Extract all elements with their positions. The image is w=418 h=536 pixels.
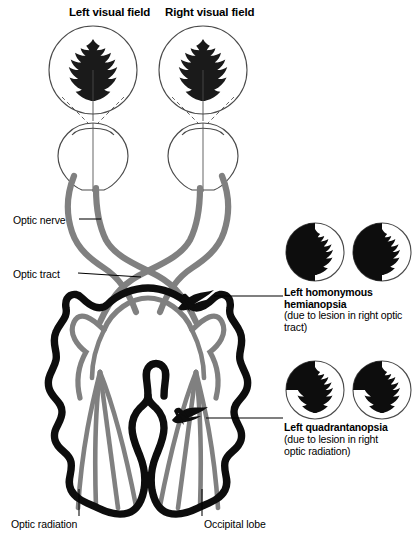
defect-circle-quadrantanopsia-left bbox=[285, 360, 344, 419]
label-quadrantanopsia-title: Left quadrantanopsia bbox=[284, 421, 416, 433]
label-quadrantanopsia-subtitle: (due to lesion in right optic radiation) bbox=[284, 433, 418, 458]
label-hemianopsia-subtitle: (due to lesion in right optic tract) bbox=[284, 309, 418, 334]
left-eyeball bbox=[58, 123, 128, 192]
label-occipital-lobe: Occipital lobe bbox=[204, 518, 266, 530]
label-left-visual-field: Left visual field bbox=[69, 6, 150, 20]
label-hemianopsia-title: Left homonymous hemianopsia bbox=[284, 286, 416, 311]
defect-circle-quadrantanopsia-right bbox=[352, 360, 411, 419]
label-optic-nerve: Optic nerve bbox=[13, 214, 66, 226]
left-visual-field-circle bbox=[49, 26, 137, 121]
right-eyeball bbox=[168, 123, 238, 192]
defect-circle-hemianopsia-left bbox=[285, 222, 344, 282]
figure-canvas: Left visual field Right visual field Opt… bbox=[0, 0, 418, 536]
label-optic-tract: Optic tract bbox=[13, 268, 60, 280]
label-right-visual-field: Right visual field bbox=[165, 6, 254, 20]
defect-circle-hemianopsia-right bbox=[352, 222, 411, 282]
right-visual-field-circle bbox=[159, 26, 247, 121]
label-optic-radiation: Optic radiation bbox=[11, 518, 77, 530]
leader-lines bbox=[78, 219, 283, 516]
